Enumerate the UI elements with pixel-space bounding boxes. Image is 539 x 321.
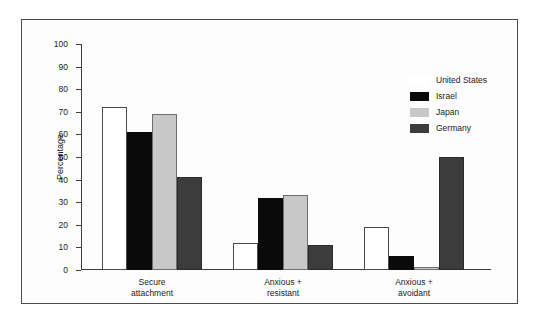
y-axis-tick-label: 30 [59,197,68,207]
legend-swatch-icon [410,124,429,133]
x-axis-category-label: Anxious +resistant [213,277,353,299]
y-axis-tick: 50 [76,157,81,158]
y-axis-tick: 10 [76,247,81,248]
legend-item: Germany [410,120,487,136]
bar-united-states [364,227,389,270]
y-axis-tick: 30 [76,202,81,203]
y-axis-tick: 40 [76,180,81,181]
legend-item: Israel [410,88,487,104]
bar-israel [258,198,283,270]
bar-germany [439,157,464,270]
legend-item: United States [410,72,487,88]
legend-item-label: Japan [436,107,459,117]
legend-item-label: Israel [436,91,457,101]
x-axis-category-label-line: resistant [213,288,353,299]
y-axis-tick: 100 [76,44,81,45]
y-axis-tick-label: 90 [59,62,68,72]
y-axis-tick: 20 [76,225,81,226]
y-axis-tick: 70 [76,112,81,113]
x-axis-category-label-line: attachment [82,288,222,299]
bar-israel [127,132,152,270]
legend-swatch-icon [410,76,429,85]
bar-group: Anxious +resistant [233,44,333,270]
y-axis-tick-label: 10 [59,242,68,252]
legend-item: Japan [410,104,487,120]
legend-item-label: United States [436,75,487,85]
bar-japan [414,267,439,270]
y-axis-tick: 0 [76,270,81,271]
x-axis-category-label-line: Secure [82,277,222,288]
x-axis-category-label-line: avoidant [344,288,484,299]
y-axis-tick-label: 80 [59,84,68,94]
y-axis-tick-label: 20 [59,220,68,230]
x-axis-category-label-line: Anxious + [213,277,353,288]
x-axis-category-label-line: Anxious + [344,277,484,288]
bar-japan [152,114,177,270]
legend-swatch-icon [410,108,429,117]
y-axis-tick-label: 0 [63,265,68,275]
chart-legend: United StatesIsraelJapanGermany [410,72,487,136]
y-axis-label: Percentage [55,134,65,180]
bar-united-states [102,107,127,270]
chart-figure-frame: 0102030405060708090100 Percentage Secure… [21,19,518,304]
y-axis-tick: 60 [76,134,81,135]
legend-swatch-icon [410,92,429,101]
bar-japan [283,195,308,270]
y-axis-line [81,44,82,270]
y-axis-tick-label: 100 [54,39,68,49]
legend-item-label: Germany [436,123,471,133]
x-axis-category-label: Secureattachment [82,277,222,299]
bar-germany [177,177,202,270]
y-axis-tick-label: 70 [59,107,68,117]
y-axis-tick: 80 [76,89,81,90]
bar-united-states [233,243,258,270]
x-axis-category-label: Anxious +avoidant [344,277,484,299]
bar-group: Secureattachment [102,44,202,270]
bar-israel [389,256,414,270]
y-axis-tick: 90 [76,67,81,68]
bar-germany [308,245,333,270]
